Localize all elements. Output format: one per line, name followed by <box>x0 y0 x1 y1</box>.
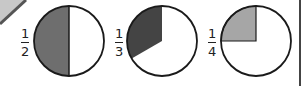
fraction-label-third: 1 3 <box>115 27 123 58</box>
fraction-bar <box>21 42 29 43</box>
denominator: 3 <box>115 45 123 58</box>
circle-one-third <box>127 6 197 76</box>
numerator: 1 <box>21 27 29 40</box>
fraction-bar <box>115 42 123 43</box>
fraction-circles <box>0 0 306 86</box>
right-border-line <box>299 0 301 86</box>
denominator: 2 <box>21 45 29 58</box>
fraction-bar <box>208 42 216 43</box>
numerator: 1 <box>115 27 123 40</box>
circle-one-half <box>34 6 104 76</box>
fraction-label-half: 1 2 <box>21 27 29 58</box>
denominator: 4 <box>208 45 216 58</box>
fraction-label-quarter: 1 4 <box>208 27 216 58</box>
circle-one-quarter <box>221 6 291 76</box>
numerator: 1 <box>208 27 216 40</box>
